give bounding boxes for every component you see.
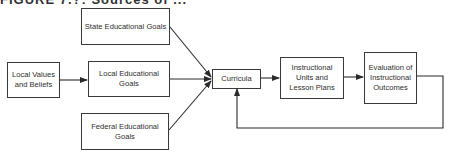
node-label: Local Educational Goals	[91, 69, 167, 89]
node-local-values-and-beliefs: Local Values and Beliefs	[7, 62, 60, 98]
node-label: Federal Educational Goals	[84, 122, 166, 142]
node-state-educational-goals: State Educational Goals	[81, 8, 170, 45]
node-local-educational-goals: Local Educational Goals	[88, 61, 170, 97]
arrow-federal-to-curricula	[169, 81, 211, 130]
node-label: Local Values and Beliefs	[10, 70, 57, 90]
node-label: Instructional Units and Lesson Plans	[283, 63, 341, 93]
node-label: State Educational Goals	[85, 22, 166, 32]
arrow-state-to-curricula	[170, 27, 211, 77]
node-evaluation-of-instructional-outcomes: Evaluation of Instructional Outcomes	[364, 52, 417, 104]
node-curricula: Curricula	[212, 69, 261, 89]
node-federal-educational-goals: Federal Educational Goals	[81, 113, 169, 150]
node-instructional-units-and-lesson-plans: Instructional Units and Lesson Plans	[280, 57, 344, 99]
node-label: Evaluation of Instructional Outcomes	[367, 63, 414, 93]
node-label: Curricula	[221, 74, 251, 84]
